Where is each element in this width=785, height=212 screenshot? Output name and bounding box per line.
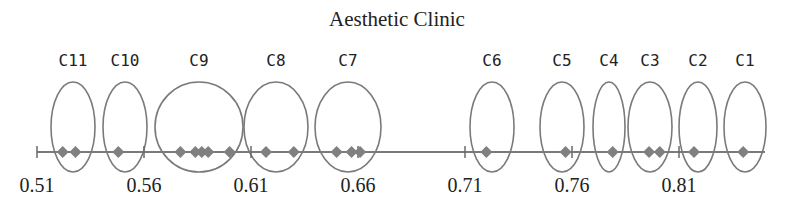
diamond-marker bbox=[480, 146, 492, 158]
cluster-label-c1: C1 bbox=[735, 51, 754, 70]
cluster-ellipse-c10 bbox=[103, 82, 147, 172]
cluster-ellipse-c9 bbox=[155, 82, 243, 172]
cluster-ellipse-c3 bbox=[628, 82, 672, 172]
diagram-title: Aesthetic Clinic bbox=[329, 7, 465, 31]
cluster-label-c9: C9 bbox=[189, 51, 208, 70]
diamond-marker bbox=[688, 146, 700, 158]
diamond-marker bbox=[331, 146, 343, 158]
tick-label: 0.56 bbox=[127, 174, 162, 196]
axis-tick-labels: 0.510.560.610.660.710.760.81 bbox=[20, 174, 697, 196]
diamond-marker bbox=[70, 146, 82, 158]
diamond-marker bbox=[260, 146, 272, 158]
diamond-marker bbox=[202, 146, 214, 158]
cluster-ellipse-c4 bbox=[593, 82, 625, 172]
cluster-label-c2: C2 bbox=[688, 51, 707, 70]
cluster-ellipse-c11 bbox=[51, 82, 95, 172]
cluster-label-c8: C8 bbox=[266, 51, 285, 70]
cluster-ellipses bbox=[51, 82, 766, 172]
diamond-marker bbox=[112, 146, 124, 158]
diamond-marker bbox=[643, 146, 655, 158]
cluster-ellipse-c2 bbox=[679, 82, 717, 172]
tick-label: 0.51 bbox=[20, 174, 55, 196]
tick-label: 0.66 bbox=[341, 174, 376, 196]
diamond-marker bbox=[654, 146, 666, 158]
diamond-marker bbox=[737, 146, 749, 158]
diamond-marker bbox=[174, 146, 186, 158]
tick-label: 0.81 bbox=[662, 174, 697, 196]
cluster-label-c3: C3 bbox=[640, 51, 659, 70]
cluster-label-c11: C11 bbox=[59, 51, 88, 70]
cluster-diagram: Aesthetic Clinic C11C10C9C8C7C6C5C4C3C2C… bbox=[0, 0, 785, 212]
diamond-marker bbox=[607, 146, 619, 158]
cluster-ellipse-c5 bbox=[540, 82, 584, 172]
diamond-marker bbox=[57, 146, 69, 158]
diamond-marker bbox=[560, 146, 572, 158]
cluster-label-c10: C10 bbox=[111, 51, 140, 70]
tick-label: 0.76 bbox=[555, 174, 590, 196]
cluster-label-c5: C5 bbox=[552, 51, 571, 70]
diamond-marker bbox=[288, 146, 300, 158]
cluster-label-c4: C4 bbox=[599, 51, 618, 70]
diamond-marker bbox=[224, 146, 236, 158]
tick-label: 0.61 bbox=[234, 174, 269, 196]
cluster-ellipse-c1 bbox=[724, 82, 766, 172]
cluster-labels: C11C10C9C8C7C6C5C4C3C2C1 bbox=[59, 51, 755, 70]
cluster-label-c6: C6 bbox=[482, 51, 501, 70]
cluster-ellipse-c7 bbox=[315, 82, 381, 172]
cluster-ellipse-c8 bbox=[244, 82, 308, 172]
diamond-marker bbox=[354, 146, 366, 158]
cluster-ellipse-c6 bbox=[470, 82, 514, 172]
cluster-label-c7: C7 bbox=[338, 51, 357, 70]
tick-label: 0.71 bbox=[448, 174, 483, 196]
